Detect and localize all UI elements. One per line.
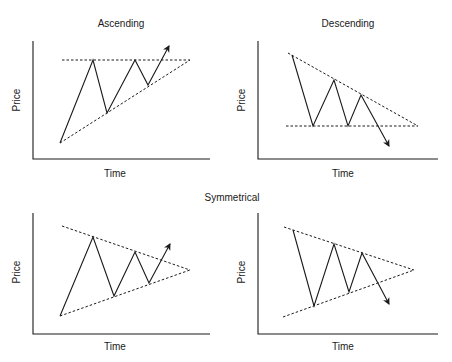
axes xyxy=(33,213,210,334)
x-axis-label: Time xyxy=(104,341,126,352)
panel-title: Descending xyxy=(322,18,375,29)
price-path-arrow xyxy=(293,230,389,306)
x-axis-label: Time xyxy=(104,168,126,179)
panel-symmetrical-up: TimePrice xyxy=(11,213,210,352)
x-axis-label: Time xyxy=(332,341,354,352)
price-path-arrow xyxy=(60,46,169,143)
x-axis-label: Time xyxy=(332,168,354,179)
panel-title: Ascending xyxy=(98,18,145,29)
trendline-dashed xyxy=(284,227,414,270)
panel-ascending: AscendingTimePrice xyxy=(11,18,210,179)
y-axis-label: Price xyxy=(236,88,247,111)
axes xyxy=(258,41,438,159)
panel-descending: DescendingTimePrice xyxy=(236,18,438,179)
price-path-arrow xyxy=(60,237,170,316)
trendline-dashed xyxy=(62,226,190,270)
y-axis-label: Price xyxy=(11,260,22,283)
price-path-arrow xyxy=(292,55,389,146)
trendline-dashed xyxy=(60,270,190,316)
triangle-patterns-figure: Symmetrical AscendingTimePriceDescending… xyxy=(0,0,452,362)
trendline-dashed xyxy=(283,270,414,317)
trendline-dashed xyxy=(60,60,190,143)
y-axis-label: Price xyxy=(236,260,247,283)
symmetrical-label: Symmetrical xyxy=(204,192,259,203)
panel-symmetrical-down: TimePrice xyxy=(236,213,438,352)
y-axis-label: Price xyxy=(11,88,22,111)
axes xyxy=(33,41,210,159)
